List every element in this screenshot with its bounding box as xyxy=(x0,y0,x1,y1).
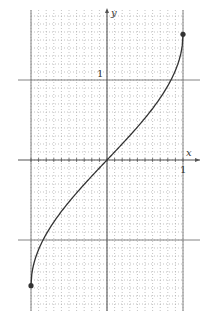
x-axis-label: x xyxy=(186,147,192,158)
arcsin-chart: y x 1 1 xyxy=(0,0,208,321)
axes xyxy=(18,8,200,311)
x-tick-label-1: 1 xyxy=(180,164,186,175)
y-axis-label: y xyxy=(110,7,117,18)
x-axis-arrow xyxy=(195,158,200,162)
endpoint-left xyxy=(28,283,33,288)
endpoint-right xyxy=(180,32,185,37)
y-axis-arrow xyxy=(105,8,109,13)
y-tick-label-1: 1 xyxy=(97,68,103,79)
